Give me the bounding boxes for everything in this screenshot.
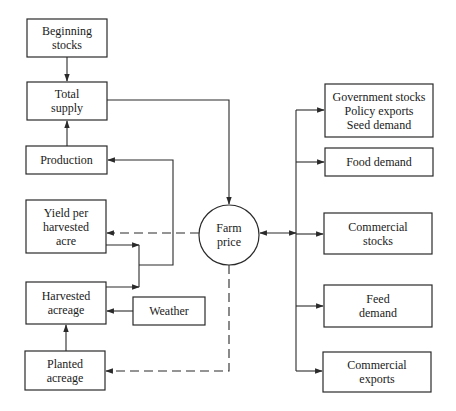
planted-line2: acreage bbox=[47, 371, 84, 385]
government-label: Government stocks Policy exports Seed de… bbox=[325, 84, 433, 137]
production-line1: Production bbox=[40, 153, 93, 167]
commercial-exports-label: Commercial exports bbox=[323, 352, 431, 392]
beginning-stocks-line1: Beginning bbox=[42, 24, 92, 38]
yield-line1: Yield per bbox=[44, 206, 88, 220]
commercial-stocks-line1: Commercial bbox=[348, 220, 407, 234]
edge-combine-to-production bbox=[108, 160, 173, 265]
government-line1: Government stocks bbox=[333, 90, 426, 104]
farm-price-line1: Farm bbox=[216, 221, 241, 235]
food-demand-line1: Food demand bbox=[346, 155, 412, 169]
harvested-acreage-label: Harvested acreage bbox=[26, 282, 106, 324]
commercial-stocks-line2: stocks bbox=[363, 234, 393, 248]
total-supply-label: Total supply bbox=[27, 82, 107, 120]
planted-line1: Planted bbox=[47, 357, 83, 371]
feed-demand-label: Feed demand bbox=[324, 285, 432, 327]
harvested-line2: acreage bbox=[48, 303, 85, 317]
yield-line3: acre bbox=[56, 234, 76, 248]
food-demand-label: Food demand bbox=[325, 148, 433, 176]
beginning-stocks-line2: stocks bbox=[52, 38, 82, 52]
commercial-exports-line2: exports bbox=[359, 372, 394, 386]
yield-line2: harvested bbox=[43, 220, 89, 234]
feed-demand-line2: demand bbox=[359, 306, 397, 320]
harvested-line1: Harvested bbox=[42, 289, 91, 303]
weather-line1: Weather bbox=[149, 304, 189, 318]
total-supply-line1: Total bbox=[55, 87, 80, 101]
yield-label: Yield per harvested acre bbox=[26, 200, 106, 253]
government-line3: Seed demand bbox=[347, 118, 411, 132]
edge-total-to-price bbox=[107, 100, 229, 204]
planted-acreage-label: Planted acreage bbox=[25, 351, 105, 390]
commercial-exports-line1: Commercial bbox=[347, 358, 406, 372]
total-supply-line2: supply bbox=[51, 101, 83, 115]
commercial-stocks-label: Commercial stocks bbox=[324, 213, 432, 254]
feed-demand-line1: Feed bbox=[366, 292, 389, 306]
farm-price-line2: price bbox=[217, 235, 241, 249]
production-label: Production bbox=[26, 146, 107, 174]
government-line2: Policy exports bbox=[345, 104, 414, 118]
farm-price-label: Farm price bbox=[199, 205, 259, 265]
weather-label: Weather bbox=[133, 297, 205, 325]
beginning-stocks-label: Beginning stocks bbox=[27, 19, 107, 57]
